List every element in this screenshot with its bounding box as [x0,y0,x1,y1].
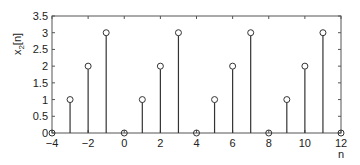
stem [139,97,145,133]
y-tick-label: 1 [42,94,48,106]
stem [175,30,181,133]
x-tick-label: −2 [82,137,95,149]
stem-marker [175,30,181,36]
data-stems [49,30,344,136]
y-tick-label: 3.5 [33,10,48,22]
axis-labels: x2[n] n [11,33,344,160]
stem [320,30,326,133]
stem [67,97,73,133]
stem [248,30,254,133]
stem [230,63,236,133]
y-tick-label: 0.5 [33,110,48,122]
x-tick-label: 6 [230,137,236,149]
stem-plot: −4−202468101200.511.522.533.5 x2[n] n [0,0,360,165]
stem-marker [139,97,145,103]
stem-marker [284,97,290,103]
x-tick-label: 10 [299,137,311,149]
stem [85,63,91,133]
stem-marker [302,63,308,69]
y-tick-label: 0 [42,127,48,139]
stem [284,97,290,133]
plot-frame [52,16,341,133]
x-tick-label: 8 [266,137,272,149]
x-axis-label: n [338,148,344,160]
stem-marker [230,63,236,69]
y-axis-label: x2[n] [11,33,26,55]
y-tick-label: 1.5 [33,77,48,89]
y-tick-label: 2.5 [33,43,48,55]
x-tick-label: 2 [157,137,163,149]
axes: −4−202468101200.511.522.533.5 [33,10,347,149]
stem-marker [103,30,109,36]
stem-marker [320,30,326,36]
x-tick-label: 0 [121,137,127,149]
x-tick-label: 4 [193,137,199,149]
stem-marker [157,63,163,69]
y-tick-label: 2 [42,60,48,72]
stem [157,63,163,133]
stem-marker [67,97,73,103]
stem-marker [248,30,254,36]
stem-marker [212,97,218,103]
stem [212,97,218,133]
stem-marker [85,63,91,69]
y-tick-label: 3 [42,27,48,39]
stem [302,63,308,133]
stem [103,30,109,133]
